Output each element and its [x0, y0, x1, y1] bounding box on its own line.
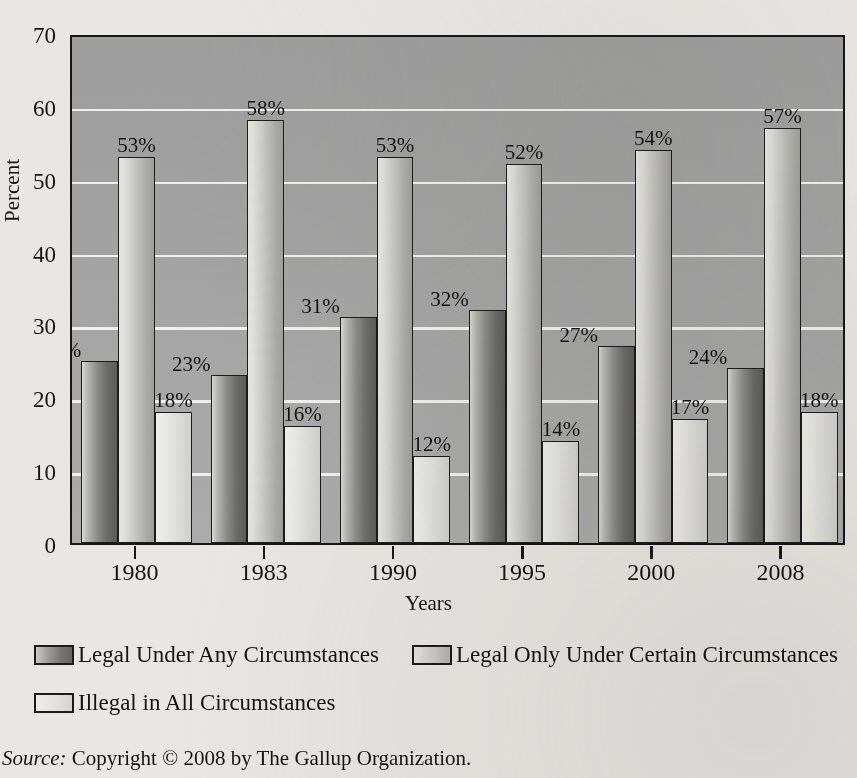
y-tick-label: 10: [0, 461, 56, 484]
bar-value-label: 31%: [301, 296, 340, 317]
x-tick: [263, 546, 266, 559]
bar[interactable]: 17%: [672, 419, 709, 543]
bar[interactable]: 18%: [801, 412, 838, 543]
legend-label: Legal Under Any Circumstances: [78, 643, 379, 666]
bar-group: 32%52%14%: [469, 37, 579, 543]
y-tick-label: 40: [0, 243, 56, 266]
bar-value-label: 16%: [283, 404, 322, 425]
bar-value-label: 25%: [70, 340, 81, 361]
gallup-abortion-opinion-bar-chart: 706050403020100 Percent 25%53%18%23%58%1…: [0, 0, 857, 778]
bar-group: 24%57%18%: [727, 37, 837, 543]
bar-value-label: 23%: [172, 354, 211, 375]
plot-area: 25%53%18%23%58%16%31%53%12%32%52%14%27%5…: [70, 35, 845, 545]
x-tick-label: 1980: [111, 560, 159, 584]
bar[interactable]: 52%: [506, 164, 543, 543]
bar-value-label: 54%: [634, 128, 673, 149]
x-tick: [521, 546, 524, 559]
bar[interactable]: 31%: [340, 317, 377, 543]
bar[interactable]: 24%: [727, 368, 764, 543]
bar-group: 23%58%16%: [211, 37, 321, 543]
legend-swatch-icon: [34, 645, 74, 665]
bar[interactable]: 27%: [598, 346, 635, 543]
bar[interactable]: 58%: [247, 120, 284, 543]
legend-label: Illegal in All Circumstances: [78, 691, 335, 714]
bar-value-label: 17%: [671, 397, 710, 418]
y-tick-label: 70: [0, 24, 56, 47]
bar-value-label: 27%: [560, 325, 599, 346]
bar[interactable]: 53%: [377, 157, 414, 543]
bar-value-label: 18%: [800, 390, 839, 411]
y-tick-label: 20: [0, 388, 56, 411]
bar-value-label: 14%: [542, 419, 581, 440]
source-note: Source: Copyright © 2008 by The Gallup O…: [2, 748, 471, 769]
bar-value-label: 52%: [505, 142, 544, 163]
legend-item[interactable]: Legal Only Under Certain Circumstances: [412, 643, 838, 666]
bar[interactable]: 57%: [764, 128, 801, 543]
bar-value-label: 58%: [247, 98, 286, 119]
x-tick: [392, 546, 395, 559]
bar[interactable]: 18%: [155, 412, 192, 543]
bar[interactable]: 14%: [542, 441, 579, 543]
y-axis-title: Percent: [2, 159, 23, 222]
bar-value-label: 18%: [154, 390, 193, 411]
legend-item[interactable]: Illegal in All Circumstances: [34, 691, 335, 714]
bar[interactable]: 23%: [211, 375, 248, 543]
bar[interactable]: 32%: [469, 310, 506, 543]
x-tick-label: 1990: [369, 560, 417, 584]
bars-layer: 25%53%18%23%58%16%31%53%12%32%52%14%27%5…: [72, 37, 843, 543]
y-tick-label: 30: [0, 315, 56, 338]
bar-group: 25%53%18%: [81, 37, 191, 543]
x-tick: [650, 546, 653, 559]
bar-value-label: 53%: [117, 135, 156, 156]
bar[interactable]: 25%: [81, 361, 118, 543]
x-tick-label: 1983: [240, 560, 288, 584]
x-tick: [134, 546, 137, 559]
bar[interactable]: 12%: [413, 456, 450, 543]
source-text: Copyright © 2008 by The Gallup Organizat…: [72, 746, 472, 770]
y-tick-label: 0: [0, 534, 56, 557]
bar[interactable]: 16%: [284, 426, 321, 543]
legend-swatch-icon: [34, 693, 74, 713]
legend-label: Legal Only Under Certain Circumstances: [456, 643, 838, 666]
bar[interactable]: 54%: [635, 150, 672, 543]
source-label: Source:: [2, 746, 67, 770]
bar-value-label: 24%: [689, 347, 728, 368]
legend-item[interactable]: Legal Under Any Circumstances: [34, 643, 379, 666]
x-tick-label: 2000: [627, 560, 675, 584]
y-tick-label: 60: [0, 97, 56, 120]
legend-swatch-icon: [412, 645, 452, 665]
x-tick-label: 1995: [498, 560, 546, 584]
bar-value-label: 32%: [430, 289, 469, 310]
bar-group: 27%54%17%: [598, 37, 708, 543]
bar-value-label: 53%: [376, 135, 415, 156]
x-axis-title: Years: [0, 593, 857, 614]
x-tick: [779, 546, 782, 559]
bar[interactable]: 53%: [118, 157, 155, 543]
x-tick-label: 2008: [756, 560, 804, 584]
bar-value-label: 12%: [412, 434, 451, 455]
bar-value-label: 57%: [763, 106, 802, 127]
